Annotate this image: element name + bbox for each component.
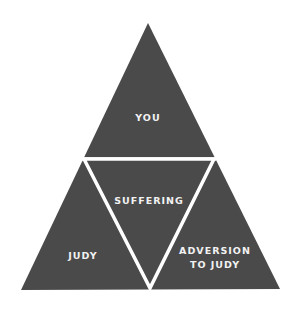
label-to-judy: TO JUDY xyxy=(190,259,240,270)
label-adversion: ADVERSION xyxy=(179,245,251,256)
triangle-diagram: YOU SUFFERING JUDY ADVERSION TO JUDY xyxy=(0,0,296,312)
label-judy: JUDY xyxy=(67,250,97,261)
section-top: YOU xyxy=(134,112,160,123)
label-you: YOU xyxy=(134,112,160,123)
label-suffering: SUFFERING xyxy=(114,195,184,206)
section-bottom-left: JUDY xyxy=(67,250,97,261)
section-center: SUFFERING xyxy=(114,195,184,206)
